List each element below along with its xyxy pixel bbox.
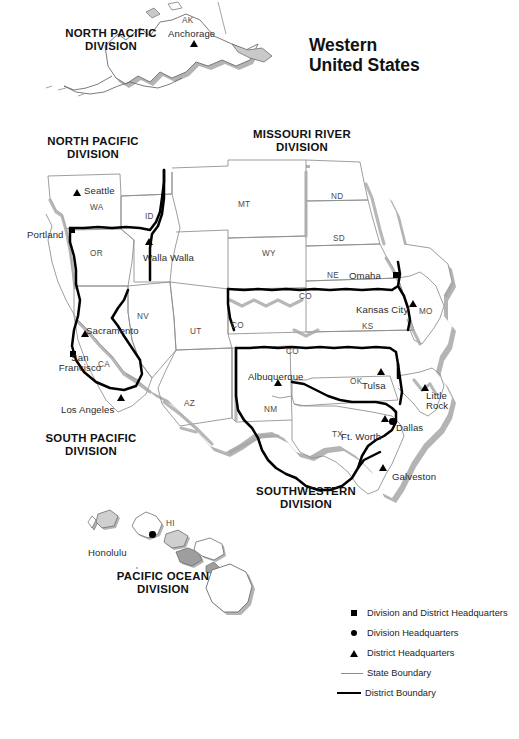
- city-label-walla-walla: Walla Walla: [143, 253, 194, 264]
- division-line2: DIVISION: [22, 148, 164, 161]
- state-label-ks: KS: [362, 322, 374, 331]
- state-label-co-north: CO: [299, 292, 312, 301]
- square-marker-icon: [341, 606, 367, 620]
- state-label-mo: MO: [419, 307, 433, 316]
- state-label-hi: HI: [166, 519, 175, 528]
- state-label-co-south: CO: [286, 347, 299, 356]
- division-line1: PACIFIC OCEAN: [88, 570, 238, 583]
- state-label-or: OR: [90, 249, 103, 258]
- division-line2: DIVISION: [227, 141, 377, 154]
- division-label-missouri-river: MISSOURI RIVER DIVISION: [227, 128, 377, 154]
- state-label-az: AZ: [184, 399, 195, 408]
- city-label-anchorage: Anchorage: [168, 29, 215, 40]
- city-label-omaha: Omaha: [349, 271, 381, 282]
- map-title: Western United States: [309, 36, 420, 75]
- division-line1: NORTH PACIFIC: [22, 135, 164, 148]
- division-line1: SOUTHWESTERN: [231, 485, 381, 498]
- state-label-wa: WA: [90, 203, 104, 212]
- city-label-honolulu: Honolulu: [88, 548, 127, 559]
- division-line2: DIVISION: [88, 583, 238, 596]
- division-label-north-pacific: NORTH PACIFIC DIVISION: [22, 135, 164, 161]
- state-label-nm: NM: [264, 405, 277, 414]
- division-label-north-pacific-alaska: NORTH PACIFIC DIVISION: [40, 27, 182, 53]
- state-label-ak: AK: [182, 16, 194, 25]
- triangle-marker-icon: [341, 646, 367, 660]
- city-label-los-angeles: Los Angeles: [61, 405, 114, 416]
- circle-marker-icon: [341, 626, 367, 640]
- marker-walla-walla-district-hq[interactable]: [145, 238, 153, 245]
- marker-ft-worth-district-hq[interactable]: [381, 415, 389, 422]
- map-title-line1: Western: [309, 36, 420, 56]
- city-label-tulsa: Tulsa: [362, 381, 386, 392]
- legend-item-district-boundary: District Boundary: [341, 686, 436, 700]
- city-label-galveston: Galveston: [392, 472, 436, 483]
- city-label-dallas: Dallas: [396, 423, 423, 434]
- marker-anchorage-district-hq[interactable]: [190, 40, 198, 47]
- city-label-ft-worth: Ft. Worth: [341, 432, 381, 443]
- state-label-co-west: CO: [231, 321, 244, 330]
- city-label-san-francisco: San Francisco: [52, 353, 108, 373]
- city-label-sacramento: Sacramento: [86, 326, 139, 337]
- city-label-line2: Francisco: [52, 363, 108, 373]
- marker-omaha-division-and-district-hq[interactable]: [393, 272, 399, 278]
- legend-item-label: Division Headquarters: [367, 628, 458, 638]
- marker-dallas-division-hq[interactable]: [389, 418, 396, 425]
- city-label-kansas-city: Kansas City: [356, 305, 408, 316]
- thick-line-icon: [337, 686, 367, 700]
- state-label-mt: MT: [238, 200, 250, 209]
- city-label-line2: Rock: [426, 401, 470, 411]
- division-line2: DIVISION: [40, 40, 182, 53]
- state-label-wy: WY: [262, 249, 276, 258]
- marker-tulsa-district-hq[interactable]: [377, 368, 385, 375]
- legend-item-division-and-district-headquarters: Division and District Headquarters: [341, 606, 508, 620]
- marker-honolulu-division-hq[interactable]: [149, 531, 156, 538]
- state-label-sd: SD: [333, 234, 345, 243]
- city-label-seattle: Seattle: [84, 186, 115, 197]
- marker-kansas-city-district-hq[interactable]: [409, 300, 417, 307]
- map-title-line2: United States: [309, 56, 420, 76]
- legend-item-label: District Headquarters: [367, 648, 454, 658]
- state-label-ne: NE: [327, 271, 339, 280]
- division-label-southwestern: SOUTHWESTERN DIVISION: [231, 485, 381, 511]
- legend-item-label: Division and District Headquarters: [367, 608, 508, 618]
- division-label-pacific-ocean: PACIFIC OCEAN DIVISION: [88, 570, 238, 596]
- division-line2: DIVISION: [231, 498, 381, 511]
- state-label-id: ID: [145, 212, 154, 221]
- marker-los-angeles-district-hq[interactable]: [117, 394, 125, 401]
- legend-item-label: District Boundary: [365, 688, 436, 698]
- legend-item-state-boundary: State Boundary: [341, 666, 431, 680]
- state-label-ut: UT: [190, 327, 202, 336]
- city-label-little-rock: Little Rock: [426, 391, 470, 411]
- marker-seattle-district-hq[interactable]: [73, 189, 81, 196]
- division-line1: NORTH PACIFIC: [40, 27, 182, 40]
- marker-portland-division-and-district-hq[interactable]: [69, 227, 75, 233]
- map-figure: Western United States NORTH PACIFIC DIVI…: [0, 0, 519, 739]
- division-line2: DIVISION: [20, 445, 162, 458]
- city-label-albuquerque: Albuquerque: [248, 372, 304, 383]
- legend-item-district-headquarters: District Headquarters: [341, 646, 454, 660]
- city-label-portland: Portland: [27, 230, 64, 241]
- legend-item-division-headquarters: Division Headquarters: [341, 626, 458, 640]
- legend: Division and District Headquarters Divis…: [341, 606, 519, 698]
- division-label-south-pacific: SOUTH PACIFIC DIVISION: [20, 432, 162, 458]
- state-label-ok: OK: [350, 377, 362, 386]
- state-label-nv: NV: [137, 312, 149, 321]
- marker-galveston-district-hq[interactable]: [379, 464, 387, 471]
- division-line1: SOUTH PACIFIC: [20, 432, 162, 445]
- division-line1: MISSOURI RIVER: [227, 128, 377, 141]
- state-label-nd: ND: [331, 192, 343, 201]
- legend-item-label: State Boundary: [367, 668, 431, 678]
